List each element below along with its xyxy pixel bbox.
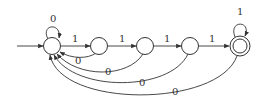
label-q3-q0: 0 (139, 77, 145, 88)
label-q4-q0: 0 (172, 86, 178, 97)
label-q4-q4: 1 (237, 6, 243, 17)
label-q1-q0: 0 (75, 55, 81, 66)
label-q1-q2: 1 (119, 33, 125, 44)
label-q0-q0: 0 (50, 13, 56, 24)
accepting-inner-ring (233, 39, 247, 53)
label-q0-q1: 1 (72, 33, 78, 44)
edge-q2-q0 (57, 54, 143, 72)
state-q2 (137, 38, 154, 55)
state-q3 (182, 38, 199, 55)
label-q2-q0: 0 (105, 66, 111, 77)
label-q2-q3: 1 (164, 33, 170, 44)
automaton-diagram: 0 1 1 1 1 1 0 0 0 0 (0, 0, 260, 108)
state-q1 (91, 38, 108, 55)
edge-q4-q4 (234, 24, 247, 37)
state-q0 (44, 38, 61, 55)
label-q3-q4: 1 (209, 33, 215, 44)
